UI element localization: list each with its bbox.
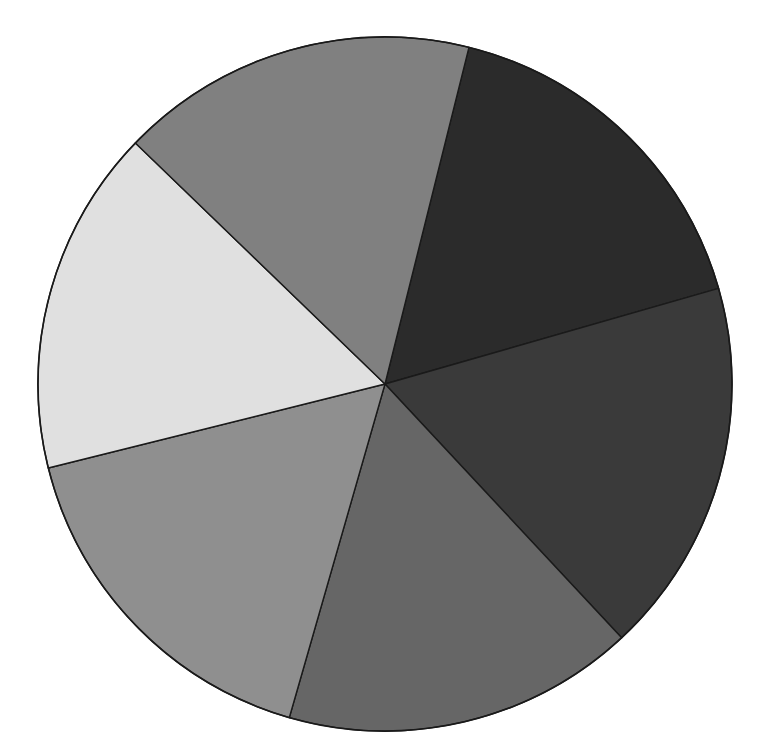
pie-chart-figure [0,0,781,756]
pie-chart-canvas [0,0,781,756]
pie-wedges-group [38,37,732,731]
